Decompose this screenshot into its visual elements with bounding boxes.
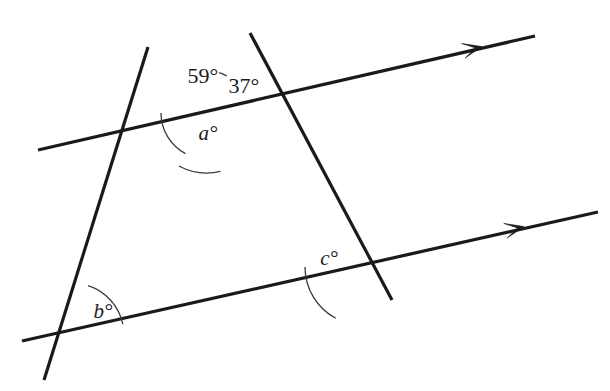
geometry-canvas: 59° 37° a° b° c° bbox=[0, 0, 610, 391]
angle-label-a: a° bbox=[199, 121, 219, 145]
geometry-diagram: 59° 37° a° b° c° bbox=[0, 0, 610, 391]
angle-label-b: b° bbox=[94, 299, 114, 323]
angle-label-37: 37° bbox=[229, 73, 260, 98]
diagram-background bbox=[0, 0, 610, 391]
angle-label-c: c° bbox=[320, 246, 338, 270]
angle-label-59: 59° bbox=[188, 63, 219, 88]
